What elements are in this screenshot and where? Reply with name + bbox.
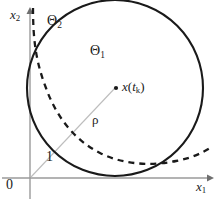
unit-tick-label: 1: [46, 150, 53, 164]
region-theta1-label: Θ1: [90, 44, 105, 60]
figure-container: x2 x1 0 1 ρ x(tk) Θ1 Θ2: [0, 0, 220, 202]
radius-label: ρ: [92, 113, 99, 126]
region-theta2-label: Θ2: [47, 14, 62, 30]
x-axis-label: x1: [196, 180, 206, 195]
origin-label: 0: [6, 178, 13, 192]
y-axis-label: x2: [10, 8, 20, 23]
state-point-marker: [114, 86, 118, 90]
x-axis-arrow: [207, 175, 214, 182]
diagram-canvas: [0, 0, 220, 202]
state-point-label: x(tk): [122, 80, 145, 95]
